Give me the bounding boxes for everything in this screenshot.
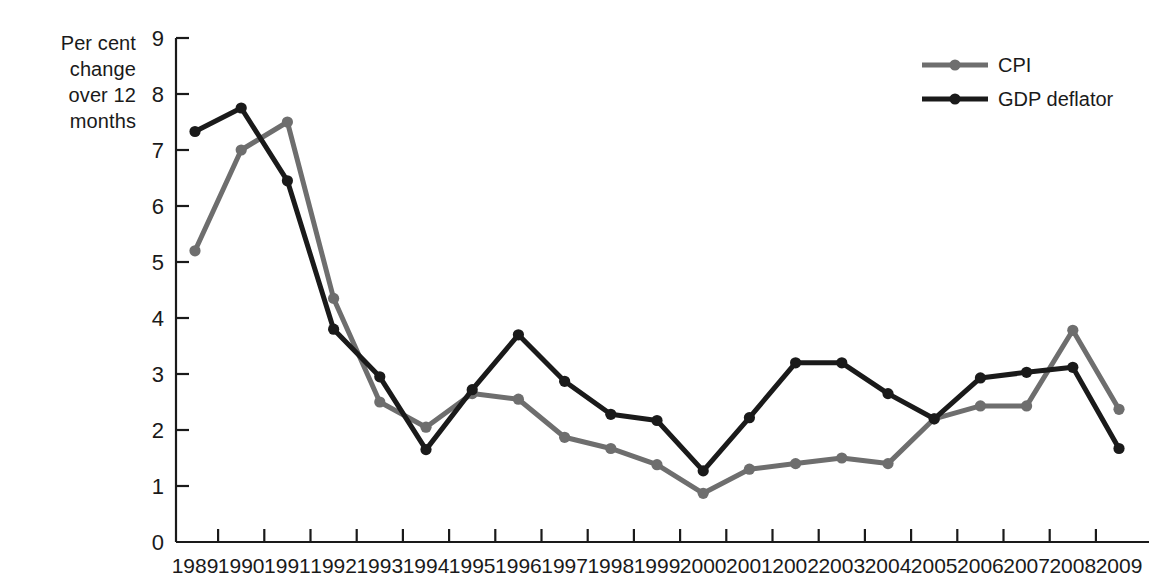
x-axis-tick-label: 1999 [634,554,681,577]
data-point [651,415,662,426]
legend-label-gdp-deflator: GDP deflator [998,88,1113,111]
x-axis-tick-label: 1991 [264,554,311,577]
data-point [1021,367,1032,378]
data-point [605,443,616,454]
data-point [374,371,385,382]
data-point [698,465,709,476]
x-axis-tick-label: 2008 [1049,554,1096,577]
data-point [236,102,247,113]
data-point [189,126,200,137]
data-point [1067,325,1078,336]
y-axis-tick-label: 4 [152,306,164,331]
data-point [744,412,755,423]
x-axis-tick-label: 2002 [772,554,819,577]
y-axis-tick-label: 3 [152,362,164,387]
legend-marker-gdp-deflator [950,94,961,105]
data-point [1113,404,1124,415]
legend-swatch-cpi [922,55,988,75]
data-point [513,394,524,405]
legend-swatch-gdp-deflator [922,89,988,109]
x-axis-tick-label: 2003 [818,554,865,577]
x-axis-tick-label: 2004 [865,554,912,577]
x-axis-tick-label: 1994 [403,554,450,577]
x-axis-tick-label: 1997 [541,554,588,577]
series-cpi [189,116,1124,498]
data-point [328,324,339,335]
data-point [374,396,385,407]
chart-legend: CPI GDP deflator [922,48,1113,116]
data-point [790,357,801,368]
x-axis-tick-label: 1993 [356,554,403,577]
data-point [744,464,755,475]
series-line [195,122,1119,493]
data-point [882,458,893,469]
data-point [282,175,293,186]
data-point [698,488,709,499]
y-axis-tick-label: 8 [152,82,164,107]
data-point [975,400,986,411]
x-axis-tick-label: 1992 [310,554,357,577]
data-point [513,329,524,340]
legend-item-gdp-deflator: GDP deflator [922,82,1113,116]
data-point [605,409,616,420]
legend-label-cpi: CPI [998,54,1031,77]
x-axis-tick-label: 1996 [495,554,542,577]
y-axis-tick-label: 5 [152,250,164,275]
data-point [559,432,570,443]
data-point [420,422,431,433]
x-axis-tick-label: 2000 [680,554,727,577]
data-point [929,413,940,424]
data-point [651,459,662,470]
chart-figure: Per cent change over 12 months 012345678… [0,0,1159,587]
y-axis-tick-label: 2 [152,418,164,443]
data-point [1021,400,1032,411]
legend-item-cpi: CPI [922,48,1113,82]
data-point [836,452,847,463]
legend-marker-cpi [950,60,961,71]
data-point [882,388,893,399]
data-point [328,293,339,304]
data-point [467,384,478,395]
x-axis-tick-label: 2009 [1096,554,1143,577]
x-axis-tick-label: 1998 [587,554,634,577]
data-point [420,444,431,455]
data-point [282,116,293,127]
data-point [790,458,801,469]
x-axis-tick-label: 2005 [911,554,958,577]
data-point [236,144,247,155]
x-axis-tick-label: 1995 [449,554,496,577]
data-point [189,245,200,256]
y-axis-tick-label: 9 [152,26,164,51]
data-point [1113,443,1124,454]
data-point [836,357,847,368]
x-axis-tick-label: 1990 [218,554,265,577]
data-point [975,372,986,383]
y-axis-tick-label: 6 [152,194,164,219]
x-axis-tick-label: 2006 [957,554,1004,577]
x-axis-tick-label: 2001 [726,554,773,577]
y-axis-tick-label: 7 [152,138,164,163]
y-axis-tick-label: 0 [152,530,164,555]
data-point [1067,362,1078,373]
y-axis-tick-label: 1 [152,474,164,499]
x-axis-tick-label: 2007 [1003,554,1050,577]
data-point [559,376,570,387]
x-axis-tick-label: 1989 [172,554,219,577]
